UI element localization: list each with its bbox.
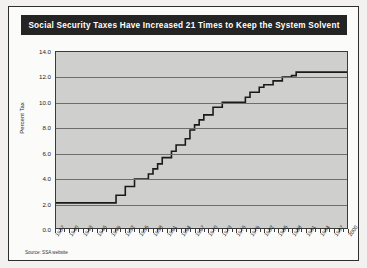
x-axis-minor-tick [255, 229, 256, 232]
y-tick-label: 12.0 [25, 73, 51, 80]
gridline [56, 179, 347, 180]
gridline [56, 103, 347, 104]
y-tick-label: 2.0 [25, 200, 51, 207]
x-axis-minor-tick [190, 229, 191, 232]
y-tick-label: 4.0 [25, 175, 51, 182]
x-axis-minor-tick [74, 229, 75, 232]
source-note: Source: SSA website [25, 250, 68, 255]
x-axis-minor-tick [60, 229, 61, 232]
x-axis-minor-tick [213, 229, 214, 232]
x-axis-minor-tick [325, 229, 326, 232]
x-axis-minor-tick [64, 229, 65, 232]
x-axis-ticks: 1937194019431946194919521955195819611964… [55, 229, 348, 234]
y-tick-label: 0.0 [25, 226, 51, 233]
gridline [56, 128, 347, 129]
x-axis-minor-tick [176, 229, 177, 232]
y-axis-tick-labels: 0.02.04.06.08.010.012.014.0 [9, 41, 51, 253]
x-tick-label: 2000 [347, 224, 359, 237]
y-tick-label: 6.0 [25, 149, 51, 156]
y-tick-label: 14.0 [25, 48, 51, 55]
gridline [56, 205, 347, 206]
x-axis-minor-tick [343, 229, 344, 232]
chart-page: Social Security Taxes Have Increased 21 … [0, 0, 367, 268]
x-axis-minor-tick [297, 229, 298, 232]
x-axis-minor-tick [246, 229, 247, 232]
x-axis-minor-tick [106, 229, 107, 232]
x-axis-minor-tick [227, 229, 228, 232]
x-axis-minor-tick [339, 229, 340, 232]
x-axis-minor-tick [204, 229, 205, 232]
x-axis-minor-tick [283, 229, 284, 232]
x-axis-minor-tick [157, 229, 158, 232]
x-axis-minor-tick [288, 229, 289, 232]
x-axis-minor-tick [274, 229, 275, 232]
x-axis-minor-tick [171, 229, 172, 232]
plot-area [55, 51, 348, 229]
x-axis-minor-tick [134, 229, 135, 232]
gridline [56, 154, 347, 155]
gridline [56, 77, 347, 78]
x-axis-minor-tick [78, 229, 79, 232]
x-axis-minor-tick [315, 229, 316, 232]
x-axis-minor-tick [102, 229, 103, 232]
x-axis-minor-tick [115, 229, 116, 232]
x-axis-minor-tick [88, 229, 89, 232]
x-axis-minor-tick [162, 229, 163, 232]
chart-area: Percent Tax 0.02.04.06.08.010.012.014.0 … [9, 41, 360, 253]
x-axis-minor-tick [329, 229, 330, 232]
x-axis-minor-tick [241, 229, 242, 232]
x-axis-minor-tick [120, 229, 121, 232]
document-frame: Social Security Taxes Have Increased 21 … [8, 6, 359, 261]
x-axis-minor-tick [311, 229, 312, 232]
x-axis-minor-tick [148, 229, 149, 232]
y-tick-label: 10.0 [25, 98, 51, 105]
x-axis-minor-tick [92, 229, 93, 232]
x-axis-minor-tick [143, 229, 144, 232]
x-axis-minor-tick [129, 229, 130, 232]
x-axis-minor-tick [301, 229, 302, 232]
x-axis-minor-tick [260, 229, 261, 232]
chart-title-banner: Social Security Taxes Have Increased 21 … [21, 15, 347, 35]
x-axis-minor-tick [218, 229, 219, 232]
y-tick-label: 8.0 [25, 124, 51, 131]
x-axis-minor-tick [232, 229, 233, 232]
x-axis-minor-tick [185, 229, 186, 232]
x-axis-minor-tick [199, 229, 200, 232]
x-axis-minor-tick [269, 229, 270, 232]
chart-title: Social Security Taxes Have Increased 21 … [28, 21, 339, 30]
